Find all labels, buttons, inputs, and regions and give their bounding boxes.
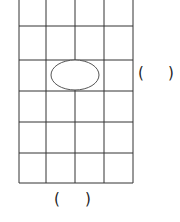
grid	[19, 0, 133, 183]
bottom-blank-open: (	[54, 192, 60, 207]
grid-diagram	[0, 0, 180, 222]
bottom-blank-close: )	[85, 192, 91, 207]
side-blank-close: )	[168, 66, 174, 81]
side-blank-open: (	[138, 66, 144, 81]
ellipse-shape	[51, 60, 99, 90]
